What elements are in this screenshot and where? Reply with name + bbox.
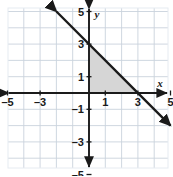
x-tick-label: –5 xyxy=(1,96,13,108)
x-tick-label: –3 xyxy=(34,96,46,108)
y-tick-label: 1 xyxy=(78,71,84,83)
grid-layer xyxy=(8,8,168,168)
x-axis-name-label: x xyxy=(156,77,163,89)
y-tick-label: 3 xyxy=(78,38,84,50)
y-tick-label: –5 xyxy=(72,169,84,177)
coordinate-plane-figure: –5–3135531–1–3–5 x y xyxy=(0,0,173,176)
x-tick-label: 3 xyxy=(135,96,141,108)
x-tick-label: 1 xyxy=(102,96,108,108)
y-tick-label: –1 xyxy=(72,103,84,115)
coordinate-plane-svg: –5–3135531–1–3–5 x y xyxy=(0,0,173,176)
x-tick-label: 5 xyxy=(167,96,173,108)
y-tick-label: 5 xyxy=(78,6,84,18)
y-tick-label: –3 xyxy=(72,136,84,148)
y-axis-name-label: y xyxy=(93,8,100,20)
